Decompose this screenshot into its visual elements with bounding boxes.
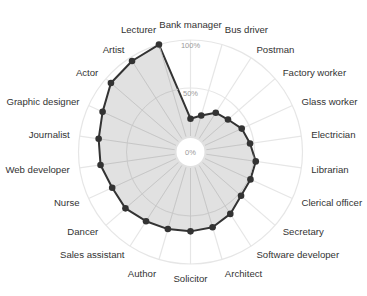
data-point-architect xyxy=(209,224,216,231)
category-label: Secretary xyxy=(283,226,324,237)
data-point-actor xyxy=(108,80,115,87)
data-point-author xyxy=(165,226,172,233)
category-label: Librarian xyxy=(311,164,348,175)
data-point-bus-driver xyxy=(198,112,205,119)
radar-chart: 0%50%100% Bank managerBus driverPostmanF… xyxy=(0,0,367,296)
category-label: Actor xyxy=(76,67,99,78)
category-label: Glass worker xyxy=(301,96,358,107)
category-label: Bank manager xyxy=(159,19,222,30)
data-point-nurse xyxy=(109,184,116,191)
category-label: Nurse xyxy=(54,197,80,208)
data-point-secretary xyxy=(238,192,245,199)
data-area xyxy=(99,45,256,232)
category-label: Solicitor xyxy=(173,273,208,284)
radial-tick-label: 50% xyxy=(183,89,198,98)
category-label: Lecturer xyxy=(121,24,157,35)
data-point-glass-worker xyxy=(238,125,245,132)
radial-tick-label: 100% xyxy=(181,41,201,50)
data-point-graphic-designer xyxy=(99,109,106,116)
category-label: Factory worker xyxy=(283,67,347,78)
data-point-solicitor xyxy=(187,228,194,235)
category-label: Dancer xyxy=(67,226,99,237)
category-label: Journalist xyxy=(29,129,70,140)
category-label: Architect xyxy=(225,268,263,279)
series-area xyxy=(99,45,256,232)
data-point-factory-worker xyxy=(225,116,232,123)
data-point-artist xyxy=(129,58,136,65)
category-label: Artist xyxy=(103,44,125,55)
data-point-postman xyxy=(212,109,219,116)
category-label: Software developer xyxy=(256,249,339,260)
radial-tick-label: 0% xyxy=(185,148,196,157)
data-point-sales-assistant xyxy=(143,218,150,225)
data-point-dancer xyxy=(122,205,129,212)
category-label: Postman xyxy=(256,44,294,55)
data-point-web-developer xyxy=(97,162,104,169)
category-label: Author xyxy=(128,268,157,279)
data-point-software-developer xyxy=(227,211,234,218)
category-label: Sales assistant xyxy=(60,249,125,260)
category-label: Clerical officer xyxy=(301,197,362,208)
data-point-lecturer xyxy=(156,41,163,48)
data-point-bank-manager xyxy=(187,115,194,122)
category-label: Graphic designer xyxy=(6,96,80,107)
data-point-clerical-officer xyxy=(247,176,254,183)
data-point-journalist xyxy=(95,135,102,142)
category-label: Electrician xyxy=(311,129,355,140)
data-point-librarian xyxy=(252,158,259,165)
category-label: Bus driver xyxy=(225,24,269,35)
data-point-electrician xyxy=(247,140,254,147)
category-label: Web developer xyxy=(5,164,70,175)
